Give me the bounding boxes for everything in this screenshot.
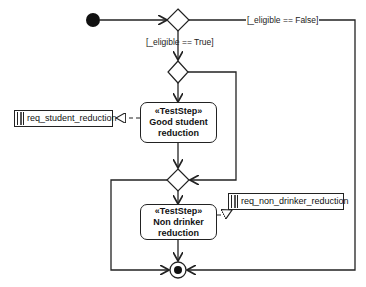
action-stereotype: «TestStep» — [141, 106, 216, 117]
requirement-non-drinker-reduction[interactable]: req_non_drinker_reduction — [228, 193, 344, 210]
requirement-icon-fill — [20, 112, 22, 125]
action-name-line2: reduction — [141, 128, 216, 139]
decision-student-node — [168, 61, 188, 83]
merge-student-node — [167, 169, 189, 191]
requirement-student-reduction[interactable]: req_student_reduction — [14, 110, 113, 127]
action-stereotype: «TestStep» — [141, 206, 216, 217]
guard-eligible-true: [_eligible == True] — [146, 37, 214, 47]
initial-node — [86, 13, 100, 27]
action-name-line2: reduction — [141, 228, 216, 239]
action-non-drinker-reduction[interactable]: «TestStep» Non drinker reduction — [140, 204, 217, 240]
decision-eligible-node — [167, 9, 189, 31]
requirement-label: req_student_reduction — [27, 113, 117, 123]
requirement-icon-fill — [234, 195, 236, 208]
action-good-student-reduction[interactable]: «TestStep» Good student reduction — [140, 102, 217, 143]
requirement-label: req_non_drinker_reduction — [241, 196, 349, 206]
guard-eligible-false: [_eligible == False] — [246, 15, 319, 25]
action-name-line1: Non drinker — [141, 217, 216, 228]
action-name-line1: Good student — [141, 117, 216, 128]
dependency-non-drinker — [217, 210, 232, 215]
final-node-inner — [174, 266, 182, 274]
